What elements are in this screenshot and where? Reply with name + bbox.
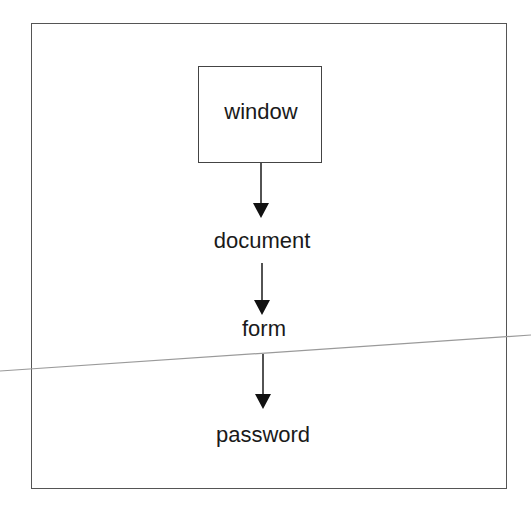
diagram-canvas: window document form password [0,0,531,512]
node-label-password: password [216,424,310,446]
node-label-document: document [214,230,311,252]
node-label-form: form [242,318,286,340]
node-label-window: window [224,101,297,123]
